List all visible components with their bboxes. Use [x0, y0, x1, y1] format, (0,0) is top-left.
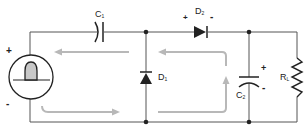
- current-arrow-lower-left: [42, 106, 114, 112]
- c2-plus-sign: +: [261, 64, 266, 73]
- ac-source-icon: [9, 55, 53, 99]
- label-c2-sub: 2: [243, 94, 246, 100]
- label-c2: C2: [236, 91, 245, 100]
- diode-d2-icon: [194, 26, 207, 38]
- current-flow-arrows: [42, 49, 230, 116]
- label-d1: D1: [158, 73, 167, 82]
- label-rl-sub: L: [287, 76, 290, 82]
- label-rl: RL: [280, 73, 289, 82]
- resistor-rl-icon: [292, 58, 302, 97]
- label-d1-sub: 1: [165, 76, 168, 82]
- label-d2: D2: [195, 7, 204, 16]
- label-c1-sub: 1: [102, 13, 105, 19]
- d2-minus-sign: -: [210, 12, 213, 22]
- d2-plus-sign: +: [183, 14, 188, 22]
- label-d2-sub: 2: [202, 10, 205, 16]
- c2-minus-sign: -: [262, 83, 265, 93]
- source-minus-sign: -: [6, 99, 9, 109]
- current-arrow-right-loop: [158, 84, 226, 112]
- diode-d1-icon: [140, 72, 152, 84]
- label-c1: C1: [95, 10, 104, 19]
- source-plus-sign: +: [6, 46, 12, 56]
